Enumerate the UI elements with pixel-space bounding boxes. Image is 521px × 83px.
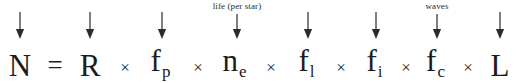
arrow-ne-icon xyxy=(231,14,244,39)
multiply-sign-4: × xyxy=(336,59,346,76)
arrow-r-icon xyxy=(84,12,97,39)
multiply-sign-3: × xyxy=(266,59,276,76)
annotation-life-per-star: life (per star) xyxy=(213,1,261,11)
equation-term-fc: fc xyxy=(426,45,444,81)
arrow-fl-icon xyxy=(302,12,315,39)
equation-term-ne: ne xyxy=(222,45,245,81)
equation-row: N = ××××××RfpneflfifcL xyxy=(0,43,521,83)
annotation-waves: waves xyxy=(426,1,449,11)
term-base: f xyxy=(366,43,376,78)
term-base: n xyxy=(222,43,238,78)
equation-term-n: N xyxy=(9,50,31,81)
arrow-l-icon xyxy=(494,12,507,39)
arrow-n-icon xyxy=(14,12,27,39)
term-base: L xyxy=(491,48,510,83)
arrow-fi-icon xyxy=(370,12,383,39)
term-base: f xyxy=(426,43,436,78)
term-subscript: p xyxy=(162,62,171,81)
multiply-sign-5: × xyxy=(401,59,411,76)
equation-term-r: R xyxy=(80,50,101,81)
term-subscript: c xyxy=(437,62,445,81)
arrow-fp-icon xyxy=(156,12,169,39)
equation-term-fi: fi xyxy=(366,45,381,81)
multiply-sign-6: × xyxy=(463,59,473,76)
multiply-sign-2: × xyxy=(193,59,203,76)
term-subscript: e xyxy=(239,62,247,81)
term-base: R xyxy=(80,48,101,83)
equation-term-fp: fp xyxy=(151,45,170,81)
term-subscript: l xyxy=(310,62,315,81)
term-base: f xyxy=(151,43,161,78)
arrow-fc-icon xyxy=(431,14,444,39)
term-base: f xyxy=(298,43,308,78)
equals-sign: = xyxy=(47,52,62,79)
term-subscript: i xyxy=(378,62,383,81)
drake-equation-diagram: life (per star) waves N = ××××××Rfpneflf… xyxy=(0,0,521,83)
multiply-sign-1: × xyxy=(120,59,130,76)
equation-term-l: L xyxy=(491,50,510,81)
equation-term-fl: fl xyxy=(298,45,313,81)
